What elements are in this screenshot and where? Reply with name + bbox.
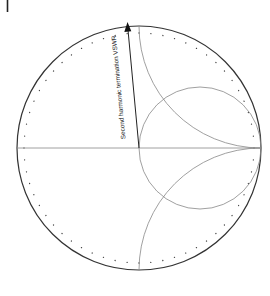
- arrow-shaft: [128, 30, 139, 148]
- vswr-label: Second harmonic termination VSWR: [110, 35, 127, 140]
- smith-chart-svg: Second harmonic termination VSWR: [0, 0, 270, 296]
- vswr-arrow: [124, 22, 139, 148]
- smith-chart-figure: Second harmonic termination VSWR: [0, 0, 270, 296]
